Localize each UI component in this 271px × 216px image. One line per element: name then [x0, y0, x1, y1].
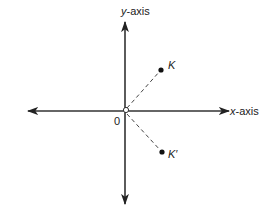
segment-origin-to-k [127, 71, 160, 108]
point-k-prime-label: K′ [168, 148, 178, 160]
point-k-prime [159, 149, 164, 154]
y-axis-label: y-axis [120, 5, 150, 17]
segment-origin-to-k-prime [127, 114, 161, 151]
y-axis-label-rest: -axis [127, 5, 151, 17]
x-axis-label: x-axis [229, 105, 259, 117]
x-axis-label-rest: -axis [236, 105, 260, 117]
origin-label: 0 [114, 115, 120, 127]
point-k-label: K [168, 59, 176, 71]
point-k [158, 67, 163, 72]
origin-point [123, 107, 128, 112]
coordinate-diagram: 0 K K′ y-axis x-axis [0, 0, 271, 216]
